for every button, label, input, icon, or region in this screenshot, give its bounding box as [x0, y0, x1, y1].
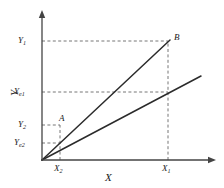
y-axis-title: Y	[9, 90, 20, 96]
data-lines	[42, 40, 201, 160]
x-tick-label-x1: X1	[162, 164, 171, 173]
x-tick-label-x2: X2	[54, 164, 63, 173]
point-label-a: A	[59, 114, 65, 123]
flat-line	[42, 76, 201, 160]
axes-lines	[41, 16, 210, 161]
y-axis-arrow	[39, 10, 45, 18]
x-axis-title: X	[105, 172, 112, 183]
point-label-b: B	[174, 33, 180, 42]
steep-line	[42, 40, 170, 160]
y-tick-label-y2: Y2	[18, 120, 26, 129]
chart-canvas	[0, 0, 224, 188]
y-tick-label-ye2: Ye2	[14, 138, 25, 147]
line-chart-figure: Y1 Ye1 Y2 Ye2 X2 X1 A B X Y	[0, 0, 224, 188]
x-axis-arrow	[208, 157, 216, 163]
y-tick-label-y1: Y1	[18, 36, 26, 45]
